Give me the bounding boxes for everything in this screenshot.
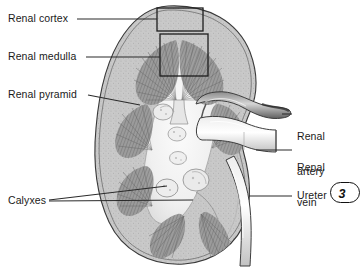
label-renal-vein: Renal vein — [297, 139, 325, 231]
label-renal-cortex: Renal cortex — [8, 13, 68, 25]
minor-calyx — [168, 127, 186, 141]
label-ureter: Ureter — [297, 190, 327, 202]
page-number-badge: 3 — [330, 182, 360, 203]
page-number-value: 3 — [331, 183, 353, 204]
minor-calyx — [170, 152, 187, 165]
label-renal-medulla: Renal medulla — [8, 51, 76, 63]
label-calyxes: Calyxes — [8, 195, 46, 207]
major-calyx — [156, 179, 178, 197]
label-renal-vein-line1: Renal — [297, 162, 325, 174]
major-calyx — [183, 169, 209, 191]
label-renal-pyramid: Renal pyramid — [8, 89, 77, 101]
